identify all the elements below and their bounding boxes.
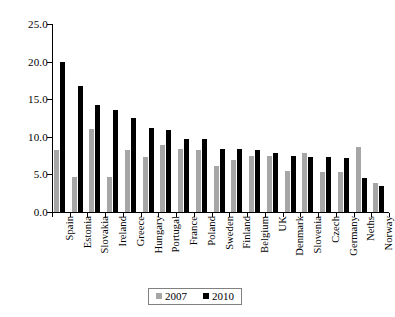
bar-2007 bbox=[54, 150, 59, 212]
x-axis-tick-mark bbox=[371, 213, 372, 217]
bar-2007 bbox=[249, 156, 254, 212]
legend-label-2010: 2010 bbox=[212, 290, 234, 302]
bar-2007 bbox=[89, 129, 94, 212]
x-axis-category-label: Hungary bbox=[154, 216, 165, 253]
bar-2010 bbox=[344, 158, 349, 212]
bar-2007 bbox=[196, 150, 201, 212]
x-axis-category-label: Belgium bbox=[260, 216, 271, 253]
y-axis-tick-label: 10.0 bbox=[28, 131, 48, 142]
bar-2007 bbox=[267, 156, 272, 212]
y-axis-tick-label: 25.0 bbox=[28, 19, 48, 30]
x-axis-tick-mark bbox=[247, 213, 248, 217]
x-axis-tick-mark bbox=[300, 213, 301, 217]
bar-2010 bbox=[78, 86, 83, 212]
bar-2010 bbox=[184, 139, 189, 212]
bar-2007 bbox=[285, 171, 290, 212]
bar-group bbox=[158, 24, 176, 212]
bar-2010 bbox=[308, 157, 313, 212]
y-axis-tick-label: 15.0 bbox=[28, 94, 48, 105]
x-axis-tick-mark bbox=[336, 213, 337, 217]
bar-2010 bbox=[166, 130, 171, 212]
x-axis-tick-mark bbox=[176, 213, 177, 217]
bar-group bbox=[247, 24, 265, 212]
x-axis-category-label: Portugal bbox=[171, 216, 182, 252]
x-axis-tick-mark bbox=[141, 213, 142, 217]
bar-2007 bbox=[214, 166, 219, 212]
x-axis-tick-mark bbox=[158, 213, 159, 217]
bar-2010 bbox=[379, 186, 384, 212]
x-axis-category-label: Sweden bbox=[225, 216, 236, 250]
bar-2010 bbox=[60, 62, 65, 212]
bar-2010 bbox=[362, 178, 367, 212]
x-axis-category-label: Spain bbox=[65, 216, 76, 240]
bar-group bbox=[141, 24, 159, 212]
bar-group bbox=[300, 24, 318, 212]
y-axis-tick-label: 20.0 bbox=[28, 56, 48, 67]
bar-group bbox=[283, 24, 301, 212]
bar-2007 bbox=[338, 172, 343, 212]
bar-group bbox=[70, 24, 88, 212]
x-axis-tick-mark bbox=[105, 213, 106, 217]
bar-2007 bbox=[320, 172, 325, 212]
x-axis-tick-mark bbox=[70, 213, 71, 217]
bar-group bbox=[87, 24, 105, 212]
y-axis-tick-label: 5.0 bbox=[34, 169, 48, 180]
x-axis-category-label: Slovenia bbox=[313, 216, 324, 254]
bar-2007 bbox=[356, 147, 361, 212]
bar-2007 bbox=[107, 177, 112, 212]
bar-2007 bbox=[143, 157, 148, 212]
legend-swatch-2010-icon bbox=[203, 293, 209, 299]
bar-2007 bbox=[231, 160, 236, 212]
bar-2010 bbox=[202, 139, 207, 212]
x-axis-tick-mark bbox=[283, 213, 284, 217]
bar-group bbox=[229, 24, 247, 212]
chart-legend: 2007 2010 bbox=[148, 288, 242, 305]
x-axis-category-label: Greece bbox=[136, 216, 147, 246]
legend-item-2010: 2010 bbox=[203, 290, 234, 302]
bar-group bbox=[194, 24, 212, 212]
x-axis-category-label: Neths bbox=[366, 216, 377, 241]
bar-group bbox=[265, 24, 283, 212]
x-axis-category-label: UK bbox=[278, 216, 289, 231]
bar-2010 bbox=[237, 149, 242, 212]
x-axis-category-label: Estonia bbox=[83, 216, 94, 248]
bar-group bbox=[336, 24, 354, 212]
bar-2007 bbox=[160, 145, 165, 212]
bar-2010 bbox=[113, 110, 118, 212]
bar-group bbox=[52, 24, 70, 212]
x-axis-tick-mark bbox=[229, 213, 230, 217]
x-axis-category-label: France bbox=[189, 216, 200, 245]
bar-2010 bbox=[326, 157, 331, 212]
x-axis-category-label: Denmark bbox=[295, 216, 306, 256]
bar-group bbox=[371, 24, 389, 212]
x-axis-tick-mark bbox=[354, 213, 355, 217]
x-axis-tick-mark bbox=[389, 213, 390, 217]
bar-group bbox=[105, 24, 123, 212]
bar-group bbox=[212, 24, 230, 212]
bar-2010 bbox=[291, 156, 296, 212]
bar-2007 bbox=[72, 177, 77, 212]
bar-group bbox=[123, 24, 141, 212]
legend-swatch-2007-icon bbox=[156, 293, 162, 299]
x-axis-category-label: Finland bbox=[242, 216, 253, 249]
x-axis-tick-mark bbox=[52, 213, 53, 217]
x-axis-tick-mark bbox=[87, 213, 88, 217]
y-axis-tick-label: 0.0 bbox=[34, 207, 48, 218]
x-axis-line bbox=[52, 212, 389, 213]
x-axis-category-label: Czech bbox=[331, 216, 342, 243]
bar-group bbox=[318, 24, 336, 212]
bar-2007 bbox=[125, 150, 130, 212]
x-axis-tick-mark bbox=[194, 213, 195, 217]
legend-item-2007: 2007 bbox=[156, 290, 187, 302]
x-axis-category-label: Norway bbox=[384, 216, 395, 250]
bar-2010 bbox=[131, 118, 136, 212]
bar-2010 bbox=[220, 149, 225, 212]
x-axis-tick-mark bbox=[265, 213, 266, 217]
x-axis-category-label: Germany bbox=[349, 216, 360, 256]
bar-2007 bbox=[178, 149, 183, 212]
bar-2010 bbox=[95, 105, 100, 212]
x-axis-tick-mark bbox=[212, 213, 213, 217]
bar-2010 bbox=[273, 153, 278, 212]
x-axis-tick-mark bbox=[123, 213, 124, 217]
